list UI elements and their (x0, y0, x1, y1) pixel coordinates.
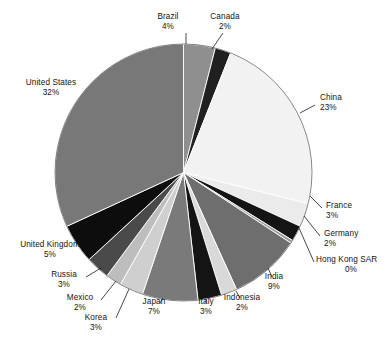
slice-label-mexico-name: Mexico (58, 293, 102, 303)
slice-label-russia: Russia 3% (42, 270, 86, 289)
slice-label-france-name: France (326, 201, 386, 211)
slice-label-hong-kong-sar: Hong Kong SAR 0% (316, 255, 389, 274)
slice-label-germany-name: Germany (324, 229, 386, 239)
slice-label-china: China 23% (320, 93, 380, 112)
pie-slices-group (55, 44, 312, 301)
slice-label-france: France 3% (326, 201, 386, 220)
leader-line-canada (212, 33, 223, 49)
slice-label-india: India 9% (256, 272, 292, 291)
slice-label-brazil-name: Brazil (141, 12, 195, 22)
slice-label-brazil-pct: 4% (141, 22, 195, 32)
leader-line-china (300, 105, 315, 113)
slice-label-korea: Korea 3% (76, 313, 116, 332)
slice-label-united-kingdom: United Kingdom 5% (9, 240, 91, 259)
slice-label-united-kingdom-name: United Kingdom (9, 240, 91, 250)
slice-label-india-pct: 9% (256, 282, 292, 292)
leader-line-hongkong (299, 228, 314, 262)
slice-label-india-name: India (256, 272, 292, 282)
leader-line-mexico (101, 281, 116, 300)
slice-label-china-name: China (320, 93, 380, 103)
leader-line-france (310, 196, 322, 208)
slice-label-brazil: Brazil 4% (141, 12, 195, 31)
slice-label-japan-pct: 7% (134, 307, 174, 317)
slice-label-mexico-pct: 2% (58, 303, 102, 313)
slice-label-korea-pct: 3% (76, 323, 116, 333)
leader-line-russia (86, 268, 101, 277)
slice-label-korea-name: Korea (76, 313, 116, 323)
slice-label-canada: Canada 2% (198, 12, 252, 31)
slice-label-canada-name: Canada (198, 12, 252, 22)
slice-label-france-pct: 3% (326, 211, 386, 221)
leader-line-korea (116, 289, 129, 318)
slice-label-italy: Italy 3% (189, 297, 223, 316)
slice-label-canada-pct: 2% (198, 22, 252, 32)
slice-label-china-pct: 23% (320, 103, 380, 113)
slice-label-united-kingdom-pct: 5% (9, 250, 91, 260)
slice-label-hong-kong-sar-name: Hong Kong SAR (316, 255, 389, 265)
slice-label-united-states-pct: 32% (16, 88, 86, 98)
slice-label-germany-pct: 2% (324, 239, 386, 249)
slice-label-united-states: United States 32% (16, 78, 86, 97)
slice-label-japan-name: Japan (134, 297, 174, 307)
pie-chart: Brazil 4% Canada 2% China 23% France 3% … (0, 0, 389, 356)
slice-label-indonesia-pct: 2% (216, 303, 268, 313)
slice-label-japan: Japan 7% (134, 297, 174, 316)
slice-label-united-states-name: United States (16, 78, 86, 88)
leader-line-germany (304, 216, 320, 236)
slice-label-hong-kong-sar-pct: 0% (316, 265, 386, 275)
slice-label-russia-name: Russia (42, 270, 86, 280)
slice-label-italy-name: Italy (189, 297, 223, 307)
slice-label-indonesia-name: Indonesia (216, 293, 268, 303)
slice-label-italy-pct: 3% (189, 307, 223, 317)
slice-label-russia-pct: 3% (42, 280, 86, 290)
slice-label-germany: Germany 2% (324, 229, 386, 248)
slice-label-indonesia: Indonesia 2% (216, 293, 268, 312)
slice-label-mexico: Mexico 2% (58, 293, 102, 312)
